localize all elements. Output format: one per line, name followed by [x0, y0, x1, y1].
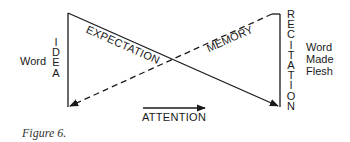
word-made-flesh-label: Word Made Flesh — [306, 41, 334, 77]
recitation-letter: N — [286, 101, 296, 111]
idea-vertical-label: I D E A — [51, 37, 61, 78]
word-made-flesh-line: Word — [306, 41, 334, 53]
word-made-flesh-line: Flesh — [306, 65, 334, 77]
figure-caption: Figure 6. — [22, 126, 66, 141]
word-label: Word — [20, 56, 46, 67]
word-made-flesh-line: Made — [306, 53, 334, 65]
attention-label: ATTENTION — [142, 112, 206, 123]
recitation-vertical-label: R E C I T A T I O N — [286, 9, 296, 111]
idea-letter: A — [51, 68, 61, 78]
